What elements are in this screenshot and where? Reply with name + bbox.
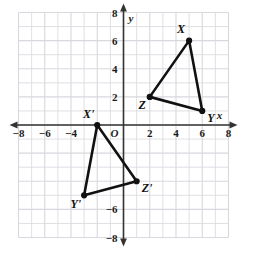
vertex-point — [199, 108, 205, 114]
y-tick-label: 6 — [112, 35, 118, 47]
vertex-label: Y' — [70, 197, 81, 211]
figure-canvas: −8−6−42468 8642−6−8 O x y XYZX'Y'Z' — [0, 0, 253, 253]
x-tick-label: −8 — [13, 127, 25, 139]
x-axis-name-label: x — [216, 109, 223, 121]
vertex-label: Z' — [141, 181, 153, 195]
y-tick-label: 2 — [112, 91, 118, 103]
y-tick-label: −8 — [106, 232, 118, 244]
x-tick-label: 2 — [147, 127, 153, 139]
x-tick-label: 6 — [200, 127, 206, 139]
y-tick-label: −6 — [106, 203, 118, 215]
x-tick-label: −6 — [39, 127, 51, 139]
x-tick-label: −4 — [65, 127, 77, 139]
x-tick-label: 8 — [226, 127, 232, 139]
vertex-point — [81, 192, 87, 198]
coordinate-plane: −8−6−42468 8642−6−8 O x y XYZX'Y'Z' — [0, 0, 253, 253]
origin-label: O — [111, 127, 119, 139]
vertex-label: X' — [82, 107, 95, 121]
vertex-label: X — [176, 22, 186, 36]
x-tick-label: 4 — [173, 127, 179, 139]
vertex-point — [94, 122, 100, 128]
vertex-point — [147, 94, 153, 100]
vertex-point — [134, 178, 140, 184]
y-axis-name-label: y — [127, 12, 134, 24]
y-tick-label: 8 — [112, 7, 118, 19]
y-tick-label: 4 — [112, 63, 118, 75]
vertex-point — [186, 38, 192, 44]
vertex-label: Z — [137, 98, 146, 112]
